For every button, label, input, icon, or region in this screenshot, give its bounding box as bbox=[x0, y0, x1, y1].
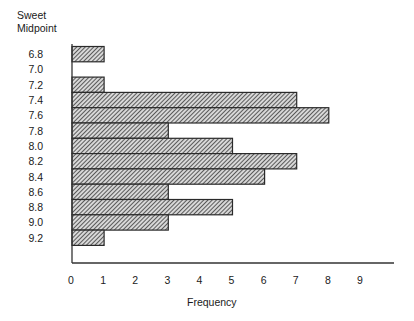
x-tick-label: 5 bbox=[229, 274, 235, 286]
x-tick-label: 8 bbox=[325, 274, 331, 286]
bar-6.8 bbox=[72, 47, 104, 62]
bar-8.8 bbox=[72, 200, 233, 215]
x-tick-label: 3 bbox=[164, 274, 170, 286]
y-tick-label: 7.2 bbox=[28, 79, 43, 91]
x-tick-label: 1 bbox=[100, 274, 106, 286]
y-tick-label: 7.4 bbox=[28, 94, 43, 106]
y-tick-label: 8.6 bbox=[28, 186, 43, 198]
bar-7.4 bbox=[72, 92, 297, 107]
histogram-chart: 6.87.07.27.47.67.88.08.28.48.68.89.09.2 … bbox=[0, 0, 414, 321]
x-tick-label: 9 bbox=[357, 274, 363, 286]
x-tick-label: 2 bbox=[132, 274, 138, 286]
y-tick-label: 8.2 bbox=[28, 155, 43, 167]
y-tick-label: 9.0 bbox=[28, 216, 43, 228]
y-tick-label: 8.8 bbox=[28, 201, 43, 213]
y-tick-label: 8.0 bbox=[28, 140, 43, 152]
y-tick-label: 6.8 bbox=[28, 48, 43, 60]
y-tick-label: 8.4 bbox=[28, 171, 43, 183]
bar-8.6 bbox=[72, 184, 168, 199]
bar-9.0 bbox=[72, 215, 168, 230]
bar-7.2 bbox=[72, 77, 104, 92]
bar-9.2 bbox=[72, 230, 104, 245]
bar-7.8 bbox=[72, 123, 168, 138]
x-tick-label: 6 bbox=[261, 274, 267, 286]
x-tick-label: 7 bbox=[293, 274, 299, 286]
y-tick-label: 7.8 bbox=[28, 125, 43, 137]
bar-7.6 bbox=[72, 108, 329, 123]
y-tick-label: 9.2 bbox=[28, 232, 43, 244]
bar-8.4 bbox=[72, 169, 265, 184]
y-tick-label: 7.0 bbox=[28, 63, 43, 75]
x-tick-label: 0 bbox=[68, 274, 74, 286]
bar-8.2 bbox=[72, 154, 297, 169]
x-tick-label: 4 bbox=[196, 274, 202, 286]
x-tick-labels: 0123456789 bbox=[68, 274, 363, 286]
bar-8.0 bbox=[72, 138, 233, 153]
y-tick-label: 7.6 bbox=[28, 109, 43, 121]
y-tick-labels: 6.87.07.27.47.67.88.08.28.48.68.89.09.2 bbox=[28, 48, 43, 244]
bars-group bbox=[72, 47, 329, 246]
x-axis-label: Frequency bbox=[187, 296, 237, 308]
